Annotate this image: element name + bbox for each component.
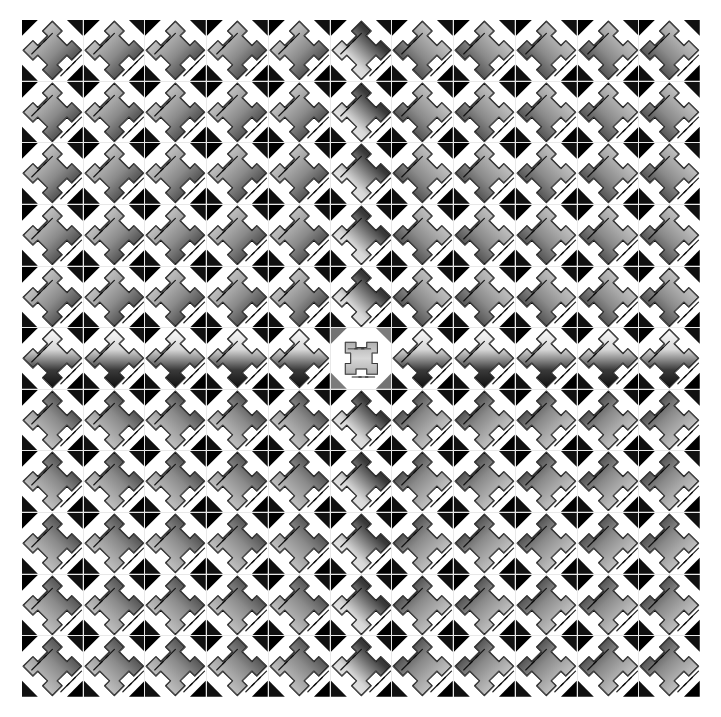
tile-r6-c2 (84, 328, 145, 389)
beveled-cross-icon (331, 267, 392, 328)
beveled-cross-icon (639, 328, 700, 389)
beveled-cross-icon (331, 82, 392, 143)
tile-r4-c7 (392, 205, 453, 266)
tile-r2-c7 (392, 82, 453, 143)
beveled-cross-icon (331, 20, 392, 81)
beveled-cross-icon (639, 205, 700, 266)
tile-r10-c6 (331, 575, 392, 636)
tile-r6-c9 (516, 328, 577, 389)
tile-r7-c9 (516, 390, 577, 451)
beveled-cross-icon (578, 143, 639, 204)
beveled-cross-icon (84, 20, 145, 81)
beveled-cross-icon (269, 390, 330, 451)
tile-r11-c1 (22, 636, 83, 697)
tile-r7-c1 (22, 390, 83, 451)
beveled-cross-icon (578, 575, 639, 636)
tile-r3-c11 (639, 143, 700, 204)
beveled-cross-icon (145, 267, 206, 328)
tile-r3-c3 (145, 143, 206, 204)
tile-r7-c11 (639, 390, 700, 451)
tile-r2-c1 (22, 82, 83, 143)
beveled-cross-icon (639, 451, 700, 512)
beveled-cross-icon (22, 20, 83, 81)
tile-r6-c4 (207, 328, 268, 389)
beveled-cross-icon (22, 636, 83, 697)
tile-r4-c3 (145, 205, 206, 266)
tile-r2-c3 (145, 82, 206, 143)
tile-r9-c1 (22, 513, 83, 574)
beveled-cross-icon (331, 143, 392, 204)
tile-r3-c5 (269, 143, 330, 204)
beveled-cross-icon (516, 143, 577, 204)
beveled-cross-icon (22, 143, 83, 204)
tile-r1-c9 (516, 20, 577, 81)
beveled-cross-icon (639, 575, 700, 636)
beveled-cross-icon (578, 636, 639, 697)
tile-r4-c6 (331, 205, 392, 266)
tile-r2-c11 (639, 82, 700, 143)
beveled-cross-icon (145, 575, 206, 636)
beveled-cross-icon (84, 82, 145, 143)
tile-r4-c11 (639, 205, 700, 266)
beveled-cross-icon (145, 328, 206, 389)
tile-r2-c8 (454, 82, 515, 143)
tile-r2-c5 (269, 82, 330, 143)
tile-r6-c5 (269, 328, 330, 389)
beveled-cross-icon (269, 575, 330, 636)
tile-r5-c3 (145, 267, 206, 328)
beveled-cross-icon (454, 451, 515, 512)
tile-r5-c10 (578, 267, 639, 328)
beveled-cross-icon (84, 575, 145, 636)
tile-r6-c7 (392, 328, 453, 389)
beveled-cross-icon (145, 82, 206, 143)
beveled-cross-icon (269, 267, 330, 328)
beveled-cross-icon (269, 20, 330, 81)
beveled-cross-icon (145, 390, 206, 451)
beveled-cross-icon (392, 143, 453, 204)
beveled-cross-icon (145, 205, 206, 266)
tile-r11-c11 (639, 636, 700, 697)
beveled-cross-icon (145, 636, 206, 697)
beveled-cross-icon (22, 205, 83, 266)
beveled-cross-icon (454, 143, 515, 204)
tile-r2-c9 (516, 82, 577, 143)
beveled-cross-icon (269, 328, 330, 389)
tile-r10-c7 (392, 575, 453, 636)
beveled-cross-icon (331, 205, 392, 266)
beveled-cross-icon (392, 636, 453, 697)
tile-r9-c8 (454, 513, 515, 574)
beveled-cross-icon (454, 205, 515, 266)
beveled-cross-icon (145, 20, 206, 81)
tile-r1-c8 (454, 20, 515, 81)
beveled-cross-icon (516, 205, 577, 266)
beveled-cross-icon (269, 636, 330, 697)
beveled-cross-icon (454, 20, 515, 81)
beveled-cross-icon (454, 267, 515, 328)
beveled-cross-icon (84, 205, 145, 266)
tile-r11-c2 (84, 636, 145, 697)
tile-r7-c5 (269, 390, 330, 451)
tile-r11-c3 (145, 636, 206, 697)
tile-r4-c8 (454, 205, 515, 266)
tile-r9-c9 (516, 513, 577, 574)
beveled-cross-icon (207, 205, 268, 266)
tile-r5-c4 (207, 267, 268, 328)
beveled-cross-icon (639, 636, 700, 697)
tile-r10-c11 (639, 575, 700, 636)
beveled-cross-icon (84, 390, 145, 451)
tile-r9-c2 (84, 513, 145, 574)
beveled-cross-icon (578, 451, 639, 512)
image-canvas (0, 0, 721, 717)
beveled-cross-icon (331, 636, 392, 697)
tile-r2-c2 (84, 82, 145, 143)
beveled-cross-icon (392, 82, 453, 143)
tile-r8-c10 (578, 451, 639, 512)
tile-r6-c6 (331, 328, 392, 389)
tile-r2-c6 (331, 82, 392, 143)
beveled-cross-icon (331, 451, 392, 512)
tile-r10-c8 (454, 575, 515, 636)
tile-r7-c6 (331, 390, 392, 451)
tile-r7-c3 (145, 390, 206, 451)
tile-r5-c7 (392, 267, 453, 328)
tile-r7-c4 (207, 390, 268, 451)
